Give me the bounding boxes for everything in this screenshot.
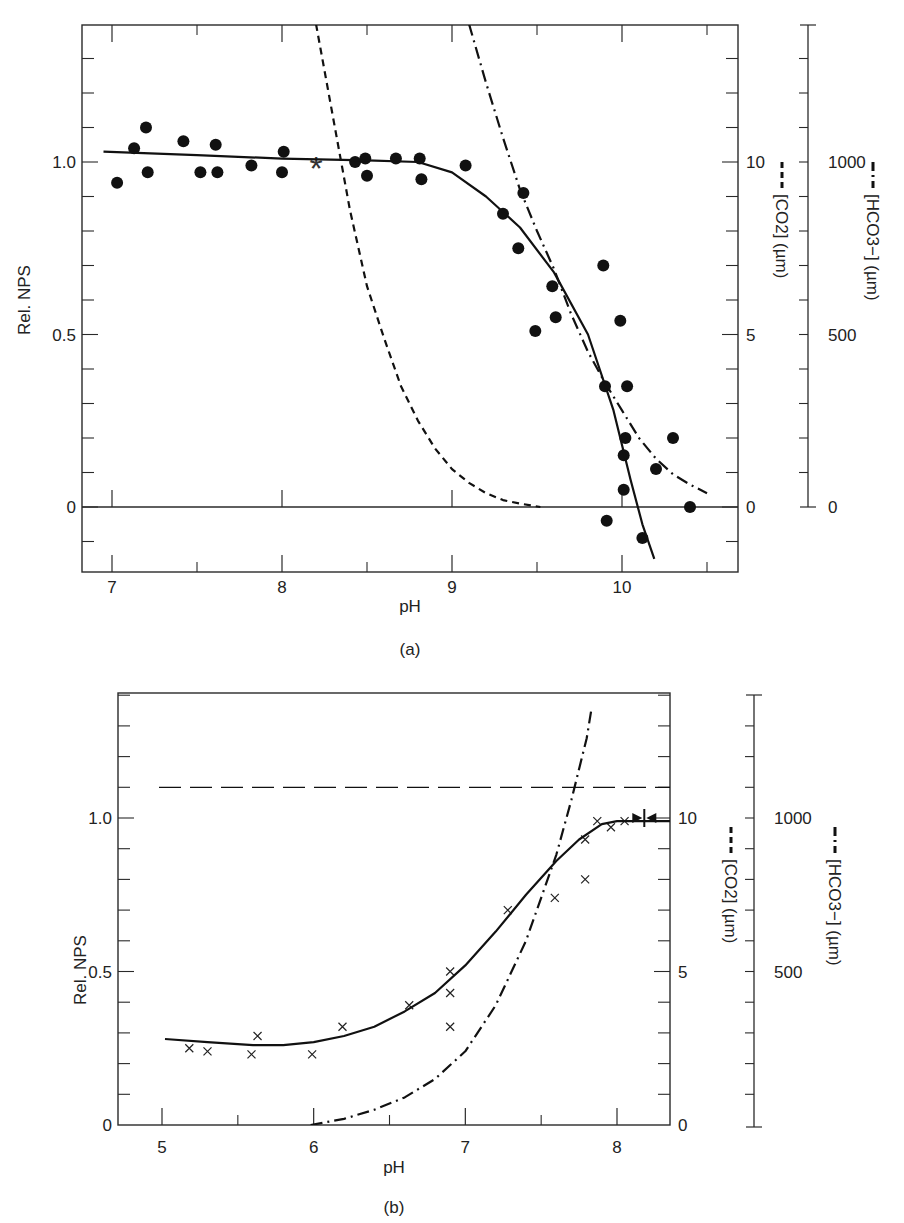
figure-canvas: 7891000.51.00510Rel. NPSpH(a)05001000[CO… bbox=[0, 0, 904, 1223]
co2-tick-label: 5 bbox=[678, 963, 687, 982]
data-point bbox=[111, 177, 123, 189]
data-point bbox=[667, 432, 679, 444]
data-point bbox=[621, 380, 633, 392]
hco3-tick-label: 500 bbox=[828, 326, 856, 345]
data-point bbox=[601, 515, 613, 527]
data-point bbox=[460, 159, 472, 171]
data-point bbox=[185, 1044, 193, 1052]
co2-tick-label: 5 bbox=[746, 326, 755, 345]
co2-tick-label: 10 bbox=[678, 809, 697, 828]
data-point bbox=[551, 894, 559, 902]
series-line bbox=[104, 152, 655, 559]
data-point bbox=[593, 817, 601, 825]
x-tick-label: 8 bbox=[277, 578, 286, 597]
compensation-point-asterisk: * bbox=[309, 149, 322, 187]
co2-tick-label: 10 bbox=[746, 153, 765, 172]
svg-text:[CO2] (µm): [CO2] (µm) bbox=[721, 859, 740, 943]
data-point bbox=[359, 153, 371, 165]
data-point bbox=[361, 170, 373, 182]
x-axis-title: pH bbox=[399, 597, 421, 616]
data-point bbox=[142, 166, 154, 178]
plot-frame bbox=[118, 693, 670, 1125]
data-point bbox=[684, 501, 696, 513]
hco3-axis-title: [HCO3−] (µm) bbox=[863, 162, 882, 301]
data-point bbox=[254, 1032, 262, 1040]
co2-axis-title: [CO2] (µm) bbox=[721, 827, 740, 943]
y-axis-title: Rel. NPS bbox=[15, 265, 34, 335]
data-point bbox=[247, 1050, 255, 1058]
x-tick-label: 8 bbox=[612, 1138, 621, 1157]
hco3-tick-label: 500 bbox=[774, 963, 802, 982]
chart-panel-b: 567800.51.00510Rel. NPSpH(b)5001000[CO2]… bbox=[71, 693, 844, 1217]
svg-text:[CO2] (µm): [CO2] (µm) bbox=[772, 194, 791, 278]
svg-text:[HCO3−] (µm): [HCO3−] (µm) bbox=[863, 194, 882, 301]
data-point bbox=[581, 875, 589, 883]
data-point bbox=[618, 484, 630, 496]
data-point bbox=[276, 166, 288, 178]
panel-caption: (a) bbox=[400, 640, 421, 659]
data-point bbox=[204, 1047, 212, 1055]
data-point bbox=[550, 311, 562, 323]
hco3-tick-label: 1000 bbox=[828, 153, 866, 172]
data-point bbox=[338, 1023, 346, 1031]
co2-tick-label: 0 bbox=[746, 498, 755, 517]
data-point bbox=[177, 135, 189, 147]
data-point bbox=[308, 1050, 316, 1058]
data-point bbox=[349, 156, 361, 168]
data-point bbox=[390, 153, 402, 165]
hco3-tick-label: 0 bbox=[828, 498, 837, 517]
data-point bbox=[607, 823, 615, 831]
x-tick-label: 5 bbox=[157, 1138, 166, 1157]
y-tick-label: 0.5 bbox=[88, 963, 112, 982]
data-point bbox=[512, 242, 524, 254]
series-line bbox=[469, 24, 707, 493]
y-tick-label: 0 bbox=[67, 498, 76, 517]
data-point bbox=[650, 463, 662, 475]
y-tick-label: 0.5 bbox=[52, 326, 76, 345]
y-axis-title: Rel. NPS bbox=[71, 935, 90, 1005]
series-line bbox=[316, 24, 540, 507]
co2-axis-title: [CO2] (µm) bbox=[772, 162, 791, 278]
series-line bbox=[165, 821, 685, 1045]
data-point bbox=[614, 315, 626, 327]
x-axis-title: pH bbox=[383, 1158, 405, 1177]
svg-text:[HCO3−] (µm): [HCO3−] (µm) bbox=[825, 859, 844, 966]
data-point bbox=[597, 260, 609, 272]
data-point bbox=[546, 280, 558, 292]
data-point bbox=[194, 166, 206, 178]
co2-tick-label: 0 bbox=[678, 1116, 687, 1135]
x-tick-label: 9 bbox=[447, 578, 456, 597]
hco3-axis-title: [HCO3−] (µm) bbox=[825, 827, 844, 966]
data-point bbox=[211, 166, 223, 178]
data-point bbox=[529, 325, 541, 337]
chart-panel-a: 7891000.51.00510Rel. NPSpH(a)05001000[CO… bbox=[15, 24, 882, 659]
data-point bbox=[140, 122, 152, 134]
x-tick-label: 7 bbox=[461, 1138, 470, 1157]
data-point bbox=[415, 173, 427, 185]
panel-caption: (b) bbox=[384, 1198, 405, 1217]
x-tick-label: 6 bbox=[309, 1138, 318, 1157]
y-tick-label: 1.0 bbox=[52, 153, 76, 172]
data-point bbox=[245, 159, 257, 171]
x-tick-label: 10 bbox=[613, 578, 632, 597]
data-point bbox=[278, 146, 290, 158]
series-line bbox=[311, 711, 592, 1126]
hco3-tick-label: 1000 bbox=[774, 809, 812, 828]
data-point bbox=[446, 968, 454, 976]
data-point bbox=[446, 1023, 454, 1031]
plot-frame bbox=[82, 25, 738, 572]
y-tick-label: 1.0 bbox=[88, 809, 112, 828]
x-tick-label: 7 bbox=[107, 578, 116, 597]
data-point bbox=[446, 989, 454, 997]
data-point bbox=[210, 139, 222, 151]
y-tick-label: 0 bbox=[103, 1116, 112, 1135]
